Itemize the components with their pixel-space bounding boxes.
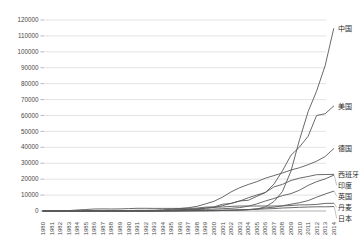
x-tick-label-1998: 1998 xyxy=(194,221,200,235)
y-tick-label: 0 xyxy=(35,207,39,214)
x-tick-label-1990: 1990 xyxy=(126,221,132,235)
x-tick-label-1996: 1996 xyxy=(177,221,183,235)
series-label-india: 印度 xyxy=(338,181,352,190)
series-label-japan: 日本 xyxy=(338,214,352,223)
x-tick-label-2013: 2013 xyxy=(322,221,328,235)
chart-frame: 0100002000030000400005000060000700008000… xyxy=(0,0,362,250)
x-tick-label-2008: 2008 xyxy=(279,221,285,235)
y-tick-label: 20000 xyxy=(21,175,39,182)
x-tick-label-1980: 1980 xyxy=(40,221,46,235)
x-tick-label-2003: 2003 xyxy=(237,221,243,235)
y-tick-label: 70000 xyxy=(21,96,39,103)
y-axis-labels: 0100002000030000400005000060000700008000… xyxy=(17,16,39,214)
leader-line-japan xyxy=(334,207,337,219)
y-tick-label: 30000 xyxy=(21,159,39,166)
x-axis-labels: 1980198119821983198419851986198719881989… xyxy=(40,221,337,235)
x-tick-label-1994: 1994 xyxy=(160,221,166,235)
x-tick-label-2004: 2004 xyxy=(245,221,251,235)
x-tick-label-1995: 1995 xyxy=(168,221,174,235)
leader-lines xyxy=(334,175,337,218)
x-tick-label-1982: 1982 xyxy=(57,221,63,235)
x-tick-label-2011: 2011 xyxy=(305,221,311,235)
x-tick-label-2007: 2007 xyxy=(271,221,277,235)
x-tick-label-1988: 1988 xyxy=(108,221,114,235)
series-line-china xyxy=(43,29,334,211)
y-tick-label: 80000 xyxy=(21,80,39,87)
x-tick-label-2009: 2009 xyxy=(288,221,294,235)
y-tick-label: 60000 xyxy=(21,112,39,119)
x-tick-label-1999: 1999 xyxy=(202,221,208,235)
y-tick-label: 50000 xyxy=(21,128,39,135)
leader-line-denmark xyxy=(334,203,337,207)
leader-line-uk xyxy=(334,191,337,196)
x-tick-label-2014: 2014 xyxy=(331,221,337,235)
wind-capacity-line-chart: 0100002000030000400005000060000700008000… xyxy=(0,0,362,250)
series-label-germany: 德国 xyxy=(338,144,352,153)
x-tick-label-1997: 1997 xyxy=(185,221,191,235)
series-line-germany xyxy=(43,149,334,211)
leader-line-india xyxy=(334,175,337,185)
y-tick-label: 10000 xyxy=(21,191,39,198)
series-end-labels: 中国美国德国西班牙印度英国丹麦日本 xyxy=(338,24,359,223)
y-tick-label: 120000 xyxy=(17,16,39,23)
x-tick-label-2001: 2001 xyxy=(220,221,226,235)
x-tick-label-1986: 1986 xyxy=(91,221,97,235)
y-tick-label: 90000 xyxy=(21,64,39,71)
series-label-china: 中国 xyxy=(338,24,352,33)
x-tick-label-1991: 1991 xyxy=(134,221,140,235)
x-tick-label-2000: 2000 xyxy=(211,221,217,235)
x-tick-label-1992: 1992 xyxy=(143,221,149,235)
x-tick-label-2002: 2002 xyxy=(228,221,234,235)
x-tick-label-1987: 1987 xyxy=(100,221,106,235)
y-tick-label: 100000 xyxy=(17,48,39,55)
series-label-usa: 美国 xyxy=(338,102,352,111)
x-tick-label-1985: 1985 xyxy=(83,221,89,235)
y-tick-label: 40000 xyxy=(21,143,39,150)
series-label-denmark: 丹麦 xyxy=(338,203,352,212)
series-lines xyxy=(43,29,334,211)
series-label-uk: 英国 xyxy=(338,192,352,201)
x-tick-label-1989: 1989 xyxy=(117,221,123,235)
y-tick-label: 110000 xyxy=(18,32,39,39)
x-tick-label-1983: 1983 xyxy=(66,221,72,235)
x-tick-label-2005: 2005 xyxy=(254,221,260,235)
x-tick-label-2006: 2006 xyxy=(262,221,268,235)
series-label-spain: 西班牙 xyxy=(338,170,359,179)
x-tick-label-1984: 1984 xyxy=(74,221,80,235)
x-tick-label-2010: 2010 xyxy=(297,221,303,235)
x-tick-label-2012: 2012 xyxy=(314,221,320,235)
x-tick-label-1993: 1993 xyxy=(151,221,157,235)
gridlines xyxy=(41,20,327,211)
x-tick-label-1981: 1981 xyxy=(49,221,55,235)
